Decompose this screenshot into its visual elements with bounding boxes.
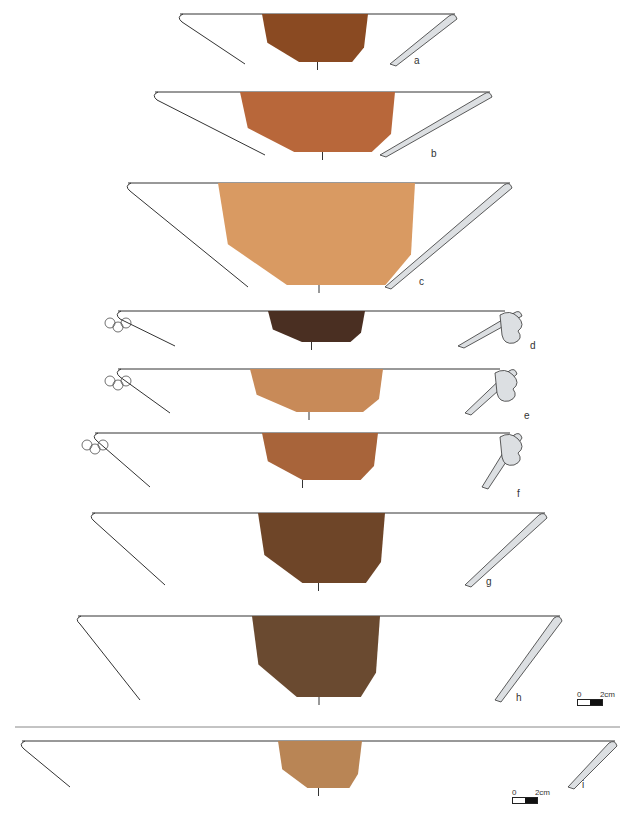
scale-bar-lower: 02cm: [512, 788, 550, 804]
sherd-label-a: a: [414, 55, 420, 66]
section-profile-h: [495, 617, 562, 702]
exterior-profile-e: [117, 369, 170, 413]
rim-lug-drawing-f: [90, 444, 100, 454]
section-profile-i: [568, 742, 617, 789]
rim-lug-drawing-d: [105, 318, 115, 328]
sherd-photo-e: [250, 369, 383, 412]
sherd-photo-c: [218, 183, 415, 285]
rim-lug-drawing-f: [98, 440, 108, 450]
exterior-profile-a: [179, 14, 245, 64]
sherd-photo-f: [262, 433, 378, 480]
rim-lug-drawing-f: [82, 440, 92, 450]
scale-bar-upper: 02cm: [577, 690, 615, 706]
sherd-label-f: f: [517, 488, 520, 499]
scale-length: 2cm: [535, 788, 550, 797]
sherd-label-d: d: [530, 340, 536, 351]
sherd-label-g: g: [486, 576, 492, 587]
rim-lug-drawing-e: [113, 380, 123, 390]
exterior-profile-f: [94, 433, 150, 487]
rim-lug-drawing-d: [113, 322, 123, 332]
scale-length: 2cm: [600, 690, 615, 699]
rim-lug-drawing-d: [121, 318, 131, 328]
sherd-photo-i: [278, 741, 362, 788]
sherd-photo-a: [262, 14, 368, 62]
sherd-label-i: i: [582, 779, 584, 790]
exterior-profile-g: [91, 513, 165, 585]
sherd-label-b: b: [431, 148, 437, 159]
sherd-photo-h: [252, 616, 380, 697]
exterior-profile-h: [77, 616, 140, 700]
exterior-profile-i: [21, 741, 70, 787]
scale-zero: 0: [512, 788, 516, 797]
section-profile-a: [390, 15, 457, 66]
sherd-label-e: e: [524, 410, 530, 421]
sherd-photo-g: [258, 513, 385, 583]
sherd-photo-b: [240, 92, 395, 152]
sherd-photo-d: [268, 311, 365, 342]
scale-zero: 0: [577, 690, 581, 699]
exterior-profile-d: [117, 311, 175, 346]
rim-lug-drawing-e: [105, 376, 115, 386]
sherd-label-h: h: [516, 692, 522, 703]
section-profile-g: [465, 514, 547, 587]
sherd-label-c: c: [419, 276, 424, 287]
pottery-plate: [0, 0, 635, 836]
